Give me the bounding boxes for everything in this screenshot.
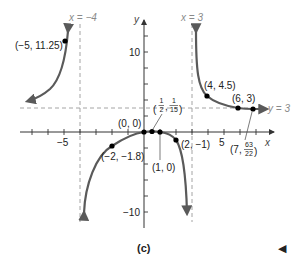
point-neg2-neg1.8: [109, 143, 114, 148]
point-label-2-neg1: (2, −1): [181, 139, 210, 150]
point-label-half: ( 1 2 , 1 15 ): [153, 97, 182, 115]
point-2-neg1: [173, 137, 178, 142]
svg-text:15: 15: [170, 106, 178, 113]
point-label-neg2: (−2, −1.8): [101, 151, 144, 162]
end-marker-icon: ◀: [278, 242, 287, 255]
tick-label-x-neg5: −5: [57, 137, 69, 148]
tick-label-y-10: 10: [129, 47, 141, 58]
y-ticks: [144, 36, 148, 212]
point-label-neg5: (−5, 11.25): [15, 40, 63, 51]
svg-text:,: ,: [165, 101, 168, 112]
point-4-4.5: [204, 93, 209, 98]
point-label-7: (7, 63 22 ): [230, 141, 257, 157]
y-axis-label: y: [133, 14, 140, 25]
rational-function-graph: x y −5 5 10 −10 x = −4 x = 3 y = 3 (−5, …: [0, 0, 298, 264]
point-neg5-11.25: [62, 38, 67, 43]
point-1-0: [157, 129, 162, 134]
svg-text:(: (: [153, 104, 157, 115]
svg-text:22: 22: [245, 150, 253, 157]
svg-text:): ): [254, 146, 257, 157]
svg-text:63: 63: [245, 141, 253, 148]
point-origin: [141, 129, 146, 134]
svg-text:1: 1: [172, 97, 176, 104]
point-6-3: [235, 105, 240, 110]
point-half-1-15: [149, 129, 154, 134]
leader-half: [153, 114, 162, 129]
x-axis-label: x: [264, 137, 271, 148]
figure-caption: (c): [137, 242, 151, 254]
svg-text:(7,: (7,: [230, 144, 242, 155]
leader-7: [245, 112, 252, 140]
svg-text:1: 1: [160, 97, 164, 104]
tick-label-y-neg10: −10: [123, 207, 140, 218]
asymptote-label-y-3: y = 3: [267, 103, 290, 114]
svg-text:2: 2: [160, 106, 164, 113]
tick-label-x-5: 5: [219, 137, 225, 148]
point-label-6: (6, 3): [232, 93, 255, 104]
svg-text:): ): [179, 104, 182, 115]
point-label-1-0: (1, 0): [152, 162, 175, 173]
asymptote-label-x-3: x = 3: [180, 12, 203, 23]
point-7-63-22: [250, 106, 255, 111]
point-label-origin: (0, 0): [118, 118, 141, 129]
asymptote-label-x-neg4: x = −4: [68, 12, 97, 23]
point-label-4: (4, 4.5): [204, 80, 236, 91]
